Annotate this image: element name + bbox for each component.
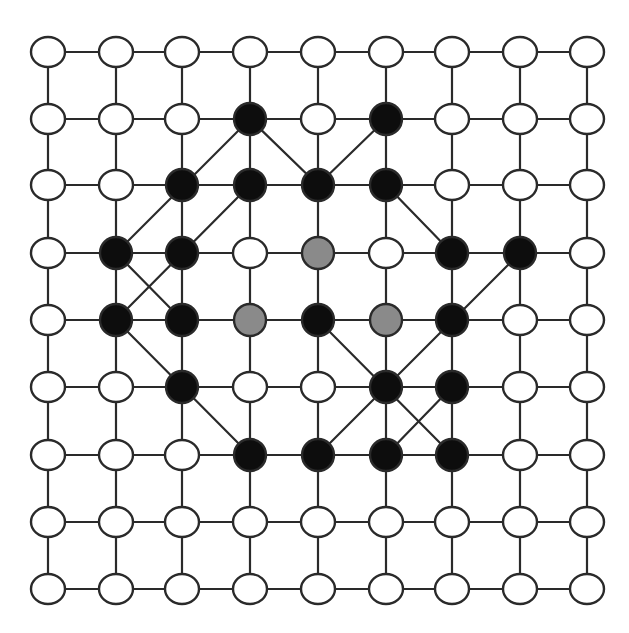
node-black-r1-c5 [370, 103, 402, 135]
node-white-r2-c1 [99, 170, 133, 200]
node-black-r3-c2 [166, 237, 198, 269]
node-black-r5-c6 [436, 371, 468, 403]
node-white-r5-c0 [31, 372, 65, 402]
node-gray-r4-c5 [370, 304, 402, 336]
node-white-r1-c1 [99, 104, 133, 134]
node-white-r1-c7 [503, 104, 537, 134]
node-white-r7-c7 [503, 507, 537, 537]
node-black-r1-c3 [234, 103, 266, 135]
node-black-r3-c1 [100, 237, 132, 269]
node-white-r7-c2 [165, 507, 199, 537]
node-white-r0-c4 [301, 37, 335, 67]
node-black-r6-c4 [302, 439, 334, 471]
node-white-r2-c6 [435, 170, 469, 200]
node-white-r7-c4 [301, 507, 335, 537]
node-black-r2-c5 [370, 169, 402, 201]
node-white-r7-c0 [31, 507, 65, 537]
graph-canvas [0, 0, 629, 633]
node-white-r0-c7 [503, 37, 537, 67]
node-white-r7-c8 [570, 507, 604, 537]
grid-graph-diagram [0, 0, 629, 633]
node-black-r4-c6 [436, 304, 468, 336]
node-white-r2-c0 [31, 170, 65, 200]
node-white-r8-c1 [99, 574, 133, 604]
node-black-r6-c3 [234, 439, 266, 471]
node-white-r8-c6 [435, 574, 469, 604]
node-white-r8-c3 [233, 574, 267, 604]
node-white-r8-c2 [165, 574, 199, 604]
node-black-r3-c6 [436, 237, 468, 269]
node-white-r6-c7 [503, 440, 537, 470]
diagonal-edge [318, 253, 520, 455]
node-white-r1-c2 [165, 104, 199, 134]
node-white-r7-c1 [99, 507, 133, 537]
node-white-r4-c0 [31, 305, 65, 335]
node-black-r4-c1 [100, 304, 132, 336]
node-white-r8-c7 [503, 574, 537, 604]
node-black-r2-c2 [166, 169, 198, 201]
node-black-r6-c5 [370, 439, 402, 471]
node-gray-r4-c3 [234, 304, 266, 336]
node-white-r6-c1 [99, 440, 133, 470]
node-white-r0-c3 [233, 37, 267, 67]
node-white-r4-c8 [570, 305, 604, 335]
node-black-r2-c4 [302, 169, 334, 201]
node-white-r7-c3 [233, 507, 267, 537]
node-white-r3-c8 [570, 238, 604, 268]
node-black-r4-c4 [302, 304, 334, 336]
node-black-r5-c2 [166, 371, 198, 403]
node-gray-r3-c4 [302, 237, 334, 269]
node-white-r1-c4 [301, 104, 335, 134]
node-black-r3-c7 [504, 237, 536, 269]
node-white-r5-c4 [301, 372, 335, 402]
node-white-r3-c5 [369, 238, 403, 268]
node-white-r3-c0 [31, 238, 65, 268]
node-white-r4-c7 [503, 305, 537, 335]
node-white-r2-c8 [570, 170, 604, 200]
node-white-r6-c0 [31, 440, 65, 470]
node-white-r8-c5 [369, 574, 403, 604]
node-white-r3-c3 [233, 238, 267, 268]
node-white-r0-c1 [99, 37, 133, 67]
node-white-r0-c5 [369, 37, 403, 67]
node-black-r6-c6 [436, 439, 468, 471]
node-black-r4-c2 [166, 304, 198, 336]
node-white-r1-c6 [435, 104, 469, 134]
node-white-r0-c8 [570, 37, 604, 67]
node-white-r7-c6 [435, 507, 469, 537]
node-white-r2-c7 [503, 170, 537, 200]
node-white-r8-c4 [301, 574, 335, 604]
node-white-r1-c0 [31, 104, 65, 134]
node-white-r7-c5 [369, 507, 403, 537]
node-white-r8-c8 [570, 574, 604, 604]
node-white-r5-c8 [570, 372, 604, 402]
node-white-r1-c8 [570, 104, 604, 134]
node-white-r5-c1 [99, 372, 133, 402]
node-black-r2-c3 [234, 169, 266, 201]
node-white-r0-c2 [165, 37, 199, 67]
node-white-r8-c0 [31, 574, 65, 604]
node-black-r5-c5 [370, 371, 402, 403]
node-white-r6-c8 [570, 440, 604, 470]
node-white-r0-c6 [435, 37, 469, 67]
node-white-r6-c2 [165, 440, 199, 470]
node-white-r0-c0 [31, 37, 65, 67]
node-white-r5-c7 [503, 372, 537, 402]
node-white-r5-c3 [233, 372, 267, 402]
node-layer [31, 37, 604, 604]
